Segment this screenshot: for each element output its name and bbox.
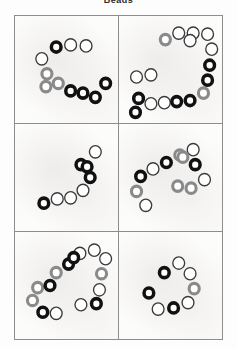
bead-marker xyxy=(38,198,48,208)
bead-markers-panel-6 xyxy=(119,232,222,339)
chart-panel-top-right[interactable] xyxy=(118,15,223,124)
bead-marker xyxy=(198,87,208,97)
bead-marker xyxy=(32,282,42,292)
bead-marker xyxy=(177,151,187,161)
panel-grid xyxy=(14,15,222,339)
bead-marker xyxy=(172,26,184,38)
bead-marker xyxy=(160,34,170,44)
bead-marker xyxy=(171,96,181,106)
bead-marker xyxy=(37,307,47,317)
bead-marker xyxy=(90,92,100,102)
bead-marker xyxy=(189,283,199,293)
bead-marker xyxy=(96,268,106,278)
bead-marker xyxy=(91,298,101,308)
bead-marker xyxy=(99,252,111,264)
bead-marker xyxy=(68,252,78,262)
bead-marker xyxy=(147,162,159,174)
bead-marker xyxy=(135,171,145,181)
bead-marker xyxy=(190,159,200,169)
bead-marker xyxy=(205,43,217,55)
chart-panel-middle-right[interactable] xyxy=(118,123,223,232)
bead-marker xyxy=(78,88,88,98)
bead-marker xyxy=(131,186,141,196)
bead-marker xyxy=(80,39,92,51)
bead-marker xyxy=(64,191,76,203)
bead-marker xyxy=(89,145,101,157)
bead-marker xyxy=(88,244,100,256)
bead-marker xyxy=(27,295,37,305)
bead-markers-panel-5 xyxy=(15,232,118,339)
bead-marker xyxy=(182,296,194,308)
bead-marker xyxy=(64,38,76,50)
bead-marker xyxy=(168,302,178,312)
bead-marker xyxy=(185,95,195,105)
bead-marker xyxy=(161,157,171,167)
bead-markers-panel-4 xyxy=(119,124,222,231)
chart-panel-middle-left[interactable] xyxy=(14,123,119,232)
bead-marker xyxy=(130,70,142,82)
bead-marker xyxy=(100,78,110,88)
bead-marker xyxy=(202,75,212,85)
bead-marker xyxy=(82,161,92,171)
bead-marker xyxy=(152,302,164,314)
figure-root: Beads xyxy=(0,0,237,348)
bead-marker xyxy=(93,283,105,295)
bead-marker xyxy=(187,143,199,155)
bead-marker xyxy=(51,192,63,204)
bead-marker xyxy=(50,307,62,319)
bead-marker xyxy=(145,68,157,80)
bead-marker xyxy=(40,81,50,91)
bead-marker xyxy=(35,52,47,64)
bead-marker xyxy=(172,180,182,190)
bead-marker xyxy=(159,267,169,277)
bead-marker xyxy=(53,78,63,88)
bead-marker xyxy=(184,34,196,46)
figure-title: Beads xyxy=(0,0,237,5)
chart-panel-bottom-right[interactable] xyxy=(118,231,223,340)
bead-markers-panel-3 xyxy=(15,124,118,231)
bead-marker xyxy=(130,107,140,117)
bead-marker xyxy=(51,267,61,277)
bead-markers-panel-2 xyxy=(119,16,222,123)
chart-panel-bottom-left[interactable] xyxy=(14,231,119,340)
bead-marker xyxy=(186,182,196,192)
bead-marker xyxy=(184,267,196,279)
bead-marker xyxy=(172,256,184,268)
bead-marker xyxy=(45,280,55,290)
bead-marker xyxy=(144,287,154,297)
bead-marker xyxy=(51,42,61,52)
bead-marker xyxy=(41,68,51,78)
bead-marker xyxy=(74,298,86,310)
bead-marker xyxy=(198,173,210,185)
bead-marker xyxy=(133,93,143,103)
bead-markers-panel-1 xyxy=(15,16,118,123)
bead-marker xyxy=(77,184,89,196)
bead-marker xyxy=(145,97,157,109)
bead-marker xyxy=(204,60,214,70)
bead-marker xyxy=(65,85,75,95)
bead-marker xyxy=(201,28,213,40)
chart-panel-top-left[interactable] xyxy=(14,15,119,124)
bead-marker xyxy=(139,199,151,211)
bead-marker xyxy=(85,172,95,182)
bead-marker xyxy=(158,96,170,108)
